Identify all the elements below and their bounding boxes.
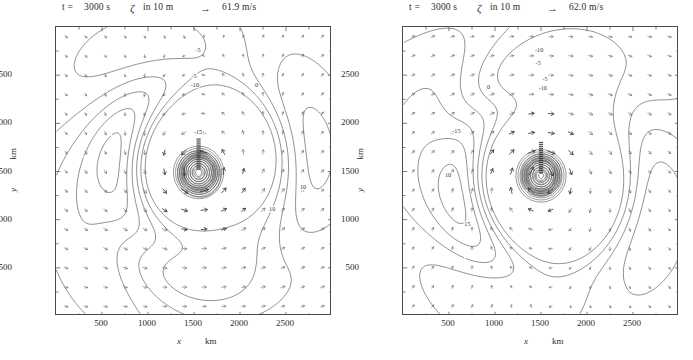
y-axis-label: y (8, 188, 18, 192)
y-axis-unit: km (355, 148, 365, 160)
y-axis-tick-label: 500 (319, 262, 359, 272)
y-axis-tick-label: 2000 (0, 117, 12, 127)
reference-vector-arrow-icon: → (200, 2, 211, 14)
y-axis-tick-label: 500 (0, 262, 12, 272)
time-label: t = (62, 2, 73, 12)
panel-left: t = 3000 s ζ in 10 m → 61.9 m/s -5-5-5-5… (0, 0, 346, 360)
y-axis-tick-label: 2000 (319, 117, 359, 127)
contour-label: -5 (543, 75, 548, 82)
time-value: 3000 s (84, 2, 110, 12)
contour-label: -15 (452, 127, 460, 134)
y-axis-tick-label: 2500 (319, 69, 359, 79)
plot-area-left: -5-5-5-5-10-1000-15-1510101010 (55, 26, 331, 315)
y-axis-tick-label: 2500 (0, 69, 12, 79)
contour-label: 10 (269, 205, 275, 212)
plot-frame-left: -5-5-5-5-10-1000-15-1510101010 (55, 26, 331, 315)
plot-area-right: -10-10-5-5-5-5-10-1000-15-1510101515 (402, 26, 678, 315)
x-axis-tick-label: 2000 (566, 318, 606, 328)
contour-label: 0 (487, 83, 490, 90)
x-axis-tick-label: 1000 (474, 318, 514, 328)
x-axis-tick-label: 500 (428, 318, 468, 328)
reference-speed: 61.9 m/s (222, 2, 256, 12)
contour-label: -5 (196, 46, 201, 53)
time-label: t = (409, 2, 420, 12)
figure-container: t = 3000 s ζ in 10 m → 61.9 m/s -5-5-5-5… (0, 0, 693, 360)
x-axis-unit: km (205, 336, 217, 346)
plot-frame-right: -10-10-5-5-5-5-10-1000-15-1510101515 (402, 26, 678, 315)
panel-right-header: t = 3000 s ζ in 10 m → 62.0 m/s (347, 2, 693, 18)
contour-label: -10 (191, 81, 199, 88)
x-axis-tick-label: 2000 (219, 318, 259, 328)
contour-label: -10 (535, 46, 543, 53)
y-axis-label: y (355, 188, 365, 192)
x-axis-tick-label: 1000 (127, 318, 167, 328)
x-axis-tick-label: 2500 (612, 318, 652, 328)
field-units: in 10 m (490, 2, 520, 12)
field-symbol: ζ (130, 2, 135, 14)
contour-label: -5 (191, 72, 196, 79)
field-units: in 10 m (143, 2, 173, 12)
y-axis-tick-label: 1500 (319, 166, 359, 176)
time-value: 3000 s (431, 2, 457, 12)
x-axis-tick-label: 500 (81, 318, 121, 328)
x-axis-tick-label: 1500 (520, 318, 560, 328)
y-axis-unit: km (8, 148, 18, 160)
contour-label: -15 (194, 128, 202, 135)
x-axis-unit: km (552, 336, 564, 346)
contour-label: -5 (536, 59, 541, 66)
panel-right: t = 3000 s ζ in 10 m → 62.0 m/s -10-10-5… (347, 0, 693, 360)
panel-left-header: t = 3000 s ζ in 10 m → 61.9 m/s (0, 2, 346, 18)
contour-label: -10 (539, 84, 547, 91)
contour-quiver-canvas-right: -10-10-5-5-5-5-10-1000-15-1510101515 (403, 27, 678, 315)
contour-lines (56, 27, 331, 315)
x-axis-tick-label: 1500 (173, 318, 213, 328)
y-axis-tick-label: 1000 (319, 214, 359, 224)
contour-label: 10 (445, 171, 451, 178)
contour-label: 15 (464, 220, 470, 227)
y-axis-tick-label: 1000 (0, 214, 12, 224)
x-axis-label: x (177, 336, 181, 346)
x-axis-label: x (524, 336, 528, 346)
y-axis-tick-label: 1500 (0, 166, 12, 176)
x-axis-tick-label: 2500 (265, 318, 305, 328)
reference-vector-arrow-icon: → (547, 2, 558, 14)
field-symbol: ζ (477, 2, 482, 14)
contour-label: 10 (300, 183, 306, 190)
reference-speed: 62.0 m/s (569, 2, 603, 12)
contour-label: 0 (255, 81, 258, 88)
contour-quiver-canvas-left: -5-5-5-5-10-1000-15-1510101010 (56, 27, 331, 315)
